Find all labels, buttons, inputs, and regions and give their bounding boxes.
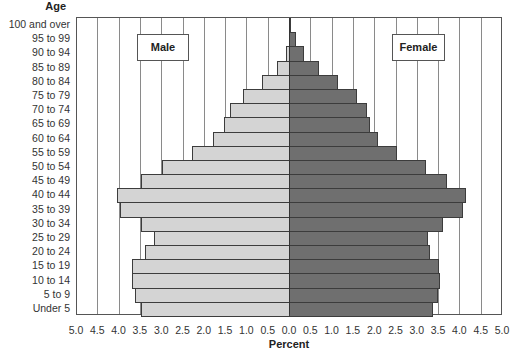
y-axis-title: Age [0, 0, 66, 12]
age-group-label: 55 to 59 [0, 145, 70, 159]
bar-male [120, 202, 290, 217]
age-group-label: 60 to 64 [0, 131, 70, 145]
bar-female [289, 302, 433, 317]
age-group-label: 85 to 89 [0, 60, 70, 74]
bar-female [289, 160, 426, 175]
bar-female [289, 146, 397, 161]
bar-male [145, 245, 290, 260]
age-group-label: 10 to 14 [0, 273, 70, 287]
age-group-label: 75 to 79 [0, 88, 70, 102]
age-group-label: 45 to 49 [0, 173, 70, 187]
center-axis-line [289, 18, 290, 314]
bar-female [289, 89, 357, 104]
age-group-label: Under 5 [0, 301, 70, 315]
bar-female [289, 217, 443, 232]
x-tick-label: 5.0 [487, 324, 517, 336]
bar-female [289, 273, 440, 288]
age-group-label: 30 to 34 [0, 216, 70, 230]
bar-male [262, 75, 290, 90]
age-group-label: 15 to 19 [0, 258, 70, 272]
pyramid-plot-area: MaleFemale [76, 17, 502, 315]
gridline [97, 18, 98, 314]
age-group-label: 70 to 74 [0, 102, 70, 116]
bar-male [224, 117, 290, 132]
bar-female [289, 117, 370, 132]
bar-male [132, 259, 290, 274]
x-axis-title: Percent [239, 338, 339, 350]
bar-male [141, 174, 290, 189]
bar-male [192, 146, 290, 161]
age-group-label: 65 to 69 [0, 116, 70, 130]
bar-female [289, 188, 466, 203]
age-group-label: 100 and over [0, 17, 70, 31]
bar-female [289, 231, 428, 246]
bar-male [135, 288, 290, 303]
age-group-label: 25 to 29 [0, 230, 70, 244]
legend-female: Female [392, 34, 445, 61]
bar-female [289, 288, 438, 303]
age-group-label: 20 to 24 [0, 244, 70, 258]
bar-male [141, 302, 290, 317]
age-group-label: 5 to 9 [0, 287, 70, 301]
age-group-label: 90 to 94 [0, 45, 70, 59]
age-group-label: 50 to 54 [0, 159, 70, 173]
bar-male [230, 103, 290, 118]
age-group-label: 80 to 84 [0, 74, 70, 88]
bar-female [289, 61, 319, 76]
bar-female [289, 245, 430, 260]
bar-female [289, 132, 378, 147]
gridline [481, 18, 482, 314]
bar-female [289, 174, 447, 189]
gridline [459, 18, 460, 314]
bar-female [289, 202, 463, 217]
bar-male [132, 273, 290, 288]
bar-male [141, 217, 290, 232]
bar-female [289, 103, 367, 118]
legend-male: Male [137, 34, 189, 61]
bar-male [117, 188, 290, 203]
bar-female [289, 46, 304, 61]
age-group-label: 95 to 99 [0, 31, 70, 45]
bar-male [162, 160, 290, 175]
bar-male [213, 132, 290, 147]
gridline [119, 18, 120, 314]
age-group-label: 35 to 39 [0, 202, 70, 216]
bar-male [243, 89, 290, 104]
bar-female [289, 75, 338, 90]
bar-female [289, 259, 439, 274]
bar-male [154, 231, 290, 246]
age-group-label: 40 to 44 [0, 187, 70, 201]
